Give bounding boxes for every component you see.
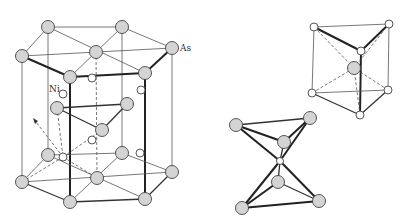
ni-center-atom: [277, 158, 284, 165]
hexagonal-unit-cell: As Ni: [16, 21, 192, 209]
as-center-atom: [348, 62, 361, 75]
ni-coordination-unit: [230, 112, 326, 215]
as-label: As: [179, 43, 191, 53]
ni-label: Ni: [49, 84, 60, 94]
ni-atoms: [59, 74, 145, 161]
trigonal-prism: [308, 20, 393, 119]
crystal-structure-diagram: As Ni: [0, 0, 405, 223]
